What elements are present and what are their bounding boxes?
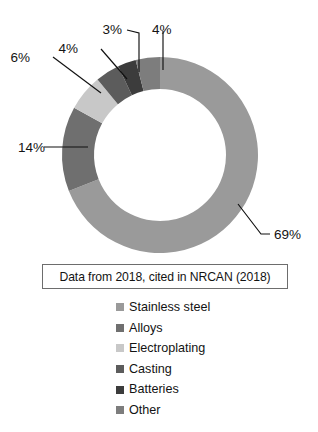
legend-swatch-icon xyxy=(116,406,124,414)
caption-text: Data from 2018, cited in NRCAN (2018) xyxy=(59,270,270,284)
pct-label-casting: 4% xyxy=(58,41,78,56)
caption-box: Data from 2018, cited in NRCAN (2018) xyxy=(42,264,288,289)
pct-label-alloys: 14% xyxy=(18,140,45,155)
legend-item-electroplating[interactable]: Electroplating xyxy=(116,338,306,359)
legend-item-casting[interactable]: Casting xyxy=(116,359,306,380)
donut-chart-svg: 6% 4% 3% 4% 14% 69% xyxy=(0,0,318,270)
pct-label-batteries: 3% xyxy=(102,22,122,37)
legend-swatch-icon xyxy=(116,344,124,352)
legend-item-batteries[interactable]: Batteries xyxy=(116,379,306,400)
legend-swatch-icon xyxy=(116,303,124,311)
legend-item-label: Batteries xyxy=(129,383,179,396)
pct-label-electroplating: 6% xyxy=(10,50,30,65)
legend-swatch-icon xyxy=(116,386,124,394)
leader-line-stainless-steel xyxy=(238,204,270,234)
legend-item-alloys[interactable]: Alloys xyxy=(116,318,306,339)
legend-swatch-icon xyxy=(116,324,124,332)
donut-chart-figure: 6% 4% 3% 4% 14% 69% Data from 2018, cite… xyxy=(0,0,318,432)
pct-label-other: 4% xyxy=(152,22,172,37)
legend-item-label: Other xyxy=(129,404,161,417)
legend-swatch-icon xyxy=(116,365,124,373)
legend-item-stainless-steel[interactable]: Stainless steel xyxy=(116,297,306,318)
leader-line-electroplating xyxy=(53,57,101,93)
donut-slice-alloys[interactable] xyxy=(62,108,102,191)
legend-item-label: Alloys xyxy=(129,322,163,335)
legend-item-label: Stainless steel xyxy=(129,301,210,314)
percentage-labels: 6% 4% 3% 4% 14% 69% xyxy=(10,22,301,242)
pct-label-stainless-steel: 69% xyxy=(274,227,301,242)
legend-item-other[interactable]: Other xyxy=(116,400,306,421)
chart-legend: Stainless steelAlloysElectroplatingCasti… xyxy=(116,297,306,421)
legend-item-label: Casting xyxy=(129,363,172,376)
legend-item-label: Electroplating xyxy=(129,342,205,355)
